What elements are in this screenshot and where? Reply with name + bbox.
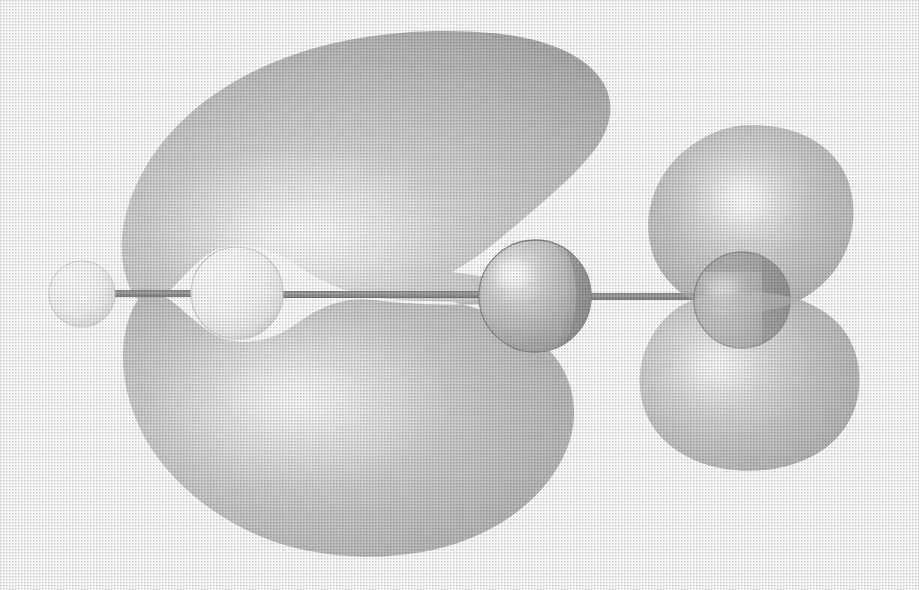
atom-carbon-inner-left [191, 247, 283, 339]
orbital-isosurface-canvas [0, 0, 919, 590]
lobe-lower-right-front-overlap [640, 292, 860, 471]
atom-hydrogen-terminal [49, 261, 115, 327]
molecular-orbital-figure [0, 0, 919, 590]
